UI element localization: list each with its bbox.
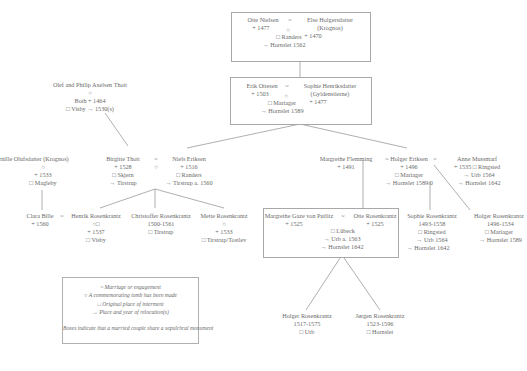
line-couple7-jorgen	[342, 255, 380, 310]
marriage-tilde-icon: ~	[341, 212, 344, 221]
relocation: → Hornslet 1589/0	[385, 179, 433, 188]
line-gen2-holger	[300, 124, 407, 148]
line-birgitte-children-right	[155, 189, 224, 208]
relocation: → Hornslet 1642	[321, 243, 364, 252]
marriage-tilde-icon: ~	[60, 212, 63, 221]
legend-item-tomb: ○ A commemorating tomb has been made	[63, 291, 198, 299]
relocation: → Tirstrup a. 1560	[165, 179, 212, 188]
marriage-tilde-icon: ~	[385, 155, 388, 164]
legend-note: Boxes indicate that a married couple sha…	[63, 324, 198, 332]
person-death: + 1560	[31, 220, 48, 229]
relocation: → Hornslet 1642	[407, 244, 450, 253]
person-death: + 1470	[304, 32, 321, 41]
legend-box: ~ Marriage or engagement ○ A commemorati…	[62, 277, 199, 344]
line-couple7-holger	[306, 255, 342, 310]
relocation: → Tirstrup	[109, 179, 136, 188]
legend-item-interment: □ Original place of interment	[63, 300, 198, 308]
legend-item-relocation: → Place and year of relocation(s)	[63, 308, 198, 316]
person-death: + 1503	[251, 90, 268, 99]
marriage-tilde-icon: ~	[433, 155, 436, 164]
person-death: + 1525	[366, 220, 383, 229]
person-death: + 1525	[285, 220, 302, 229]
relocation: → Hornslet 1562	[263, 41, 306, 50]
tomb-circle-icon: ○	[154, 163, 158, 172]
burial-place: □ Tirstrup	[149, 228, 174, 237]
marriage-tilde-icon: ~	[285, 82, 288, 91]
relocation: → Hornslet 1589	[261, 107, 304, 116]
burial-place: □ Hornslet	[367, 328, 394, 337]
person-death: + 1477	[252, 24, 269, 33]
burial-place: □ Tirstrup/Tostlev	[202, 236, 247, 245]
person-name: Pernille Olufsdatter (Krognos)	[0, 155, 69, 164]
burial-place: □ Visby → 1530(s)	[66, 105, 114, 114]
relocation: → Hornslet 1589	[479, 236, 522, 245]
person-death: + 1477	[309, 98, 326, 107]
burial-place: □ Visby	[86, 236, 106, 245]
burial-place: □ Magleby	[29, 179, 56, 188]
legend-item-marriage: ~ Marriage or engagement	[63, 283, 198, 291]
line-birgitte-children-left	[100, 189, 155, 208]
person-death: + 1491	[337, 163, 354, 172]
burial-place: □ Urb	[300, 328, 315, 337]
line-gen2-niels	[187, 124, 300, 148]
relocation: → Hornslet 1642	[458, 179, 501, 188]
line-thott-birgitte	[105, 113, 128, 146]
marriage-tilde-icon: ~	[288, 16, 291, 25]
